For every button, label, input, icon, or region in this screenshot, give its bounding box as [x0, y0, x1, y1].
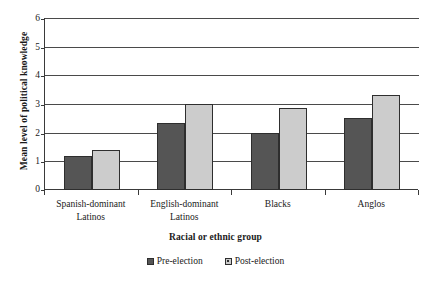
x-axis-title: Racial or ethnic group: [0, 232, 431, 242]
plot-area: 6 5 4 3 2 1 0: [44, 18, 418, 190]
y-tick-label-3: 3: [35, 100, 40, 110]
bar-chart-figure: Mean level of political knowledge 6 5 4 …: [0, 0, 431, 284]
x-tick-label-line2: Latinos: [56, 211, 125, 224]
legend-swatch-pre-election: [147, 258, 154, 265]
bars-layer: [45, 18, 419, 190]
y-tick-label-5: 5: [35, 43, 40, 53]
bar-post-election-3: [279, 108, 307, 190]
y-tick-label-0: 0: [35, 185, 40, 195]
bar-pre-election-3: [251, 133, 279, 190]
x-tick-mark-3: [325, 190, 326, 195]
bar-pre-election-1: [64, 156, 92, 190]
x-tick-label-4: Anglos: [358, 198, 385, 211]
chart-legend: Pre-election Post-election: [0, 256, 431, 266]
bar-post-election-4: [372, 95, 400, 190]
x-tick-label-line1: Spanish-dominant: [56, 198, 125, 211]
legend-label-pre-election: Pre-election: [157, 256, 203, 266]
x-tick-label-line1: English-dominant: [150, 198, 218, 211]
y-tick-label-1: 1: [35, 158, 40, 168]
x-tick-label-3: Blacks: [265, 198, 291, 211]
legend-swatch-post-election: [225, 258, 232, 265]
x-axis-layer: Spanish-dominantLatinosEnglish-dominantL…: [44, 190, 418, 236]
x-tick-mark-4: [418, 190, 419, 195]
y-axis-title: Mean level of political knowledge: [19, 8, 29, 194]
y-tick-label-6: 6: [35, 14, 40, 24]
y-tick-label-4: 4: [35, 72, 40, 82]
bar-post-election-2: [185, 104, 213, 190]
bar-pre-election-2: [157, 123, 185, 190]
x-tick-label-line1: Anglos: [358, 198, 385, 211]
x-tick-label-1: Spanish-dominantLatinos: [56, 198, 125, 224]
legend-entry-post-election: Post-election: [225, 256, 285, 266]
x-tick-label-line2: Latinos: [150, 211, 218, 224]
x-tick-mark-1: [138, 190, 139, 195]
y-tick-label-2: 2: [35, 129, 40, 139]
legend-entry-pre-election: Pre-election: [147, 256, 203, 266]
x-tick-mark-2: [231, 190, 232, 195]
x-tick-mark-0: [44, 190, 45, 195]
x-tick-label-line1: Blacks: [265, 198, 291, 211]
bar-post-election-1: [92, 150, 120, 190]
bar-pre-election-4: [344, 118, 372, 190]
legend-label-post-election: Post-election: [235, 256, 285, 266]
x-tick-label-2: English-dominantLatinos: [150, 198, 218, 224]
